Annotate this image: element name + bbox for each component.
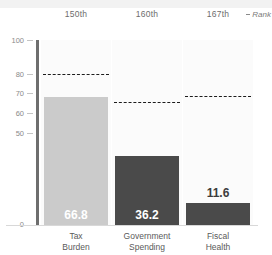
rank-header-row: 150th 160th 167th Rank [0,9,272,25]
y-tick-mark-80 [27,74,33,75]
y-tick-label-80: 80 [2,71,24,78]
rank-label-government-spending: 160th [112,9,182,19]
bar-value-fiscal-health: 11.6 [186,186,250,200]
bar-government-spending[interactable]: 36.2 [115,156,179,225]
top-band [0,0,272,8]
rank-legend: Rank [246,10,271,19]
reference-line-tax-burden [43,74,109,75]
y-tick-mark-70 [27,93,33,94]
x-label-fiscal-health: Fiscal Health [183,231,253,252]
x-label-government-spending: Government Spending [112,231,182,252]
y-tick-mark-60 [27,113,33,114]
bar-value-government-spending: 36.2 [115,208,179,222]
rank-label-tax-burden: 150th [41,9,111,19]
y-tick-label-70: 70 [2,90,24,97]
x-label-tax-burden: Tax Burden [41,231,111,252]
rank-legend-marker-icon [246,14,250,15]
reference-line-fiscal-health [185,96,251,97]
reference-line-government-spending [114,102,180,103]
bar-tax-burden[interactable]: 66.8 [44,97,108,225]
y-tick-label-100: 100 [2,37,24,44]
rank-legend-text: Rank [252,10,271,19]
economic-freedom-bar-chart: 150th 160th 167th Rank 100 80 70 60 50 0… [0,0,272,255]
bar-value-tax-burden: 66.8 [44,208,108,222]
y-tick-mark-50 [27,133,33,134]
plot-area: 100 80 70 60 50 0 66.8 36.2 11.6 [0,28,272,228]
y-tick-mark-100 [27,40,33,41]
x-axis-labels: Tax Burden Government Spending Fiscal He… [0,231,272,255]
rank-label-fiscal-health: 167th [183,9,253,19]
bar-fiscal-health[interactable] [186,203,250,225]
y-tick-label-60: 60 [2,110,24,117]
y-tick-label-50: 50 [2,130,24,137]
x-axis-baseline [6,225,258,226]
y-axis-spine [36,40,39,226]
